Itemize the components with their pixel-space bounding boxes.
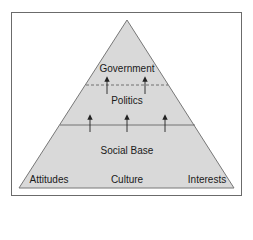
- tier-label-social-base: Social Base: [101, 145, 154, 156]
- base-label-culture: Culture: [111, 174, 143, 185]
- tier-label-politics: Politics: [111, 95, 143, 106]
- base-label-attitudes: Attitudes: [30, 174, 69, 185]
- base-label-interests: Interests: [188, 174, 226, 185]
- tier-label-government: Government: [99, 63, 154, 74]
